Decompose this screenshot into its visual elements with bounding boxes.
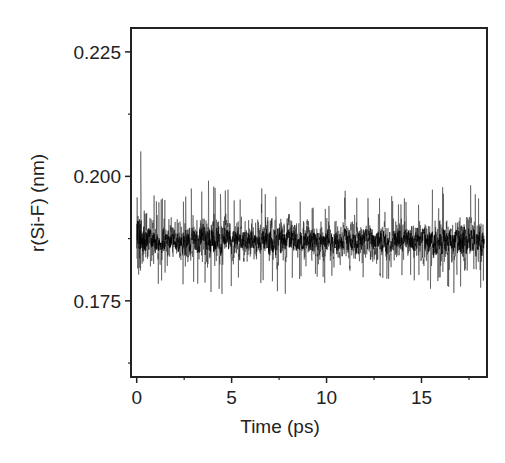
- y-tick-label: 0.225: [73, 42, 121, 63]
- x-tick-label: 0: [131, 387, 142, 408]
- trace-line: [137, 151, 484, 293]
- y-axis-title: r(Si-F) (nm): [27, 154, 48, 252]
- x-tick-label: 10: [316, 387, 337, 408]
- x-tick-label: 15: [411, 387, 432, 408]
- x-axis-title: Time (ps): [240, 416, 320, 437]
- x-axis: 051015: [131, 377, 469, 408]
- chart: 051015 0.1750.2000.225 Time (ps) r(Si-F)…: [0, 0, 505, 463]
- plot-frame: [131, 28, 487, 377]
- y-tick-label: 0.175: [73, 291, 121, 312]
- y-axis: 0.1750.2000.225: [73, 42, 131, 363]
- x-tick-label: 5: [226, 387, 237, 408]
- data-series-r-si-f: [137, 151, 484, 293]
- y-tick-label: 0.200: [73, 166, 121, 187]
